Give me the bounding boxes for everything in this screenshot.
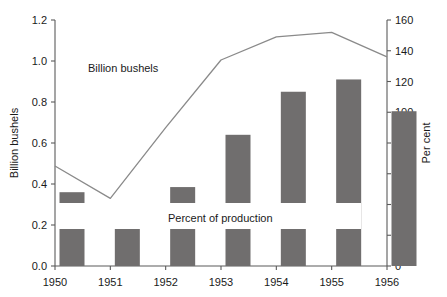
- left-tick-label: 0.4: [32, 178, 47, 190]
- x-tick-label: 1950: [43, 276, 67, 288]
- left-tick-label: 0.6: [32, 137, 47, 149]
- right-axis-tick-marks: [387, 20, 391, 266]
- x-tick-label: 1953: [209, 276, 233, 288]
- bar: [392, 111, 417, 266]
- bar: [336, 79, 361, 266]
- left-tick-label: 0.8: [32, 96, 47, 108]
- left-axis-tick-labels: 0.00.20.40.60.81.01.2: [32, 14, 47, 272]
- right-tick-label: 160: [395, 14, 413, 26]
- right-axis-title: Per cent: [420, 123, 432, 164]
- bar-series: [60, 79, 417, 266]
- x-tick-label: 1956: [375, 276, 399, 288]
- left-tick-label: 0.2: [32, 219, 47, 231]
- right-tick-label: 120: [395, 76, 413, 88]
- annotation-percent-of-production: Percent of production: [168, 212, 273, 224]
- left-axis-title: Billion bushels: [8, 107, 20, 178]
- chart-canvas: 0.00.20.40.60.81.01.2 020406080100120140…: [0, 0, 447, 297]
- left-tick-label: 1.0: [32, 55, 47, 67]
- x-tick-label: 1955: [319, 276, 343, 288]
- left-tick-label: 1.2: [32, 14, 47, 26]
- bar: [281, 92, 306, 266]
- left-axis-tick-marks: [51, 20, 55, 266]
- x-tick-label: 1954: [264, 276, 288, 288]
- left-tick-label: 0.0: [32, 260, 47, 272]
- bar: [226, 135, 251, 266]
- x-axis-tick-labels: 1950195119521953195419551956: [43, 276, 399, 288]
- x-tick-label: 1952: [153, 276, 177, 288]
- annotation-billion-bushels: Billion bushels: [88, 62, 159, 74]
- chart-container: 0.00.20.40.60.81.01.2 020406080100120140…: [0, 0, 447, 297]
- x-tick-label: 1951: [98, 276, 122, 288]
- x-axis-tick-marks: [55, 266, 387, 270]
- right-tick-label: 140: [395, 45, 413, 57]
